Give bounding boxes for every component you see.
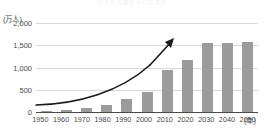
y-tick-label-0: 0 — [4, 108, 32, 117]
bar-2030[interactable] — [202, 43, 213, 112]
bar-2000[interactable] — [142, 92, 153, 112]
y-tick-label-500: 500 — [4, 86, 32, 95]
bar-cell — [238, 23, 258, 112]
x-tick-label-2000: 2000 — [134, 115, 155, 127]
x-axis-tick-labels: 1950196019701980199020002010202020302040… — [30, 115, 258, 127]
bar-cell — [218, 23, 238, 112]
bar-cell — [56, 23, 76, 112]
bar-2010[interactable] — [162, 70, 173, 112]
x-tick-label-1980: 1980 — [92, 115, 113, 127]
bar-1950[interactable] — [41, 111, 52, 112]
x-tick-label-2010: 2010 — [154, 115, 175, 127]
x-tick-label-2040: 2040 — [217, 115, 238, 127]
bar-cell — [198, 23, 218, 112]
bar-2020[interactable] — [182, 60, 193, 113]
bar-series — [36, 23, 258, 112]
x-axis-line — [36, 112, 258, 113]
bar-cell — [117, 23, 137, 112]
bar-cell — [137, 23, 157, 112]
y-tick-label-1500: 1,500 — [4, 41, 32, 50]
x-tick-label-1950: 1950 — [30, 115, 51, 127]
bar-cell — [76, 23, 96, 112]
bar-1970[interactable] — [81, 108, 92, 112]
x-tick-label-1960: 1960 — [51, 115, 72, 127]
x-tick-label-1970: 1970 — [71, 115, 92, 127]
y-tick-label-1000: 1,000 — [4, 64, 32, 73]
x-tick-label-1990: 1990 — [113, 115, 134, 127]
chart-title: 世界の高齢者人口の推移 — [0, 0, 265, 6]
bar-1960[interactable] — [61, 110, 72, 112]
bar-1990[interactable] — [121, 99, 132, 112]
bar-1980[interactable] — [101, 105, 112, 112]
chart-container: 世界の高齢者人口の推移 (万人) 2,000 1,500 1,000 500 0… — [0, 0, 265, 134]
x-tick-label-2020: 2020 — [175, 115, 196, 127]
y-tick-label-2000: 2,000 — [4, 19, 32, 28]
bar-cell — [36, 23, 56, 112]
plot-area: 2,000 1,500 1,000 500 0 — [36, 23, 258, 113]
bar-cell — [177, 23, 197, 112]
bar-2050[interactable] — [242, 42, 253, 112]
bar-2040[interactable] — [222, 43, 233, 112]
bar-cell — [97, 23, 117, 112]
x-axis-unit-label: (年) — [244, 115, 256, 125]
x-tick-label-2030: 2030 — [196, 115, 217, 127]
bar-cell — [157, 23, 177, 112]
